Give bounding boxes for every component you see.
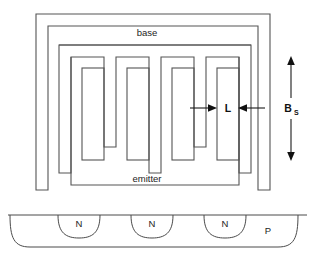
emitter-stripe-1 [82,68,104,160]
dimension-Bs-up-arrowhead [287,56,295,65]
dimension-L: L [190,102,265,114]
emitter-stripe-4 [217,68,239,160]
figure-root: base emitter L B S N N [0,0,315,262]
n-well-label-2: N [149,218,156,229]
base-label: base [137,27,158,38]
p-substrate-label: P [265,225,271,236]
dimension-L-left-arrowhead [208,104,217,112]
dimension-Bs-down-arrowhead [287,152,295,161]
n-well-label-1: N [76,218,83,229]
transistor-layout-diagram: base emitter L B S N N [0,0,315,262]
emitter-stripe-3 [172,68,194,160]
dimension-Bs-label: B [284,102,292,114]
base-comb-fingers [59,45,251,173]
emitter-label: emitter [132,173,161,184]
dimension-L-label: L [225,102,232,114]
dimension-Bs-subscript: S [294,109,299,116]
emitter-body-outline [71,57,239,185]
dimension-Bs: B S [284,56,299,161]
emitter-stripe-2 [127,68,149,160]
n-well-label-3: N [222,218,229,229]
